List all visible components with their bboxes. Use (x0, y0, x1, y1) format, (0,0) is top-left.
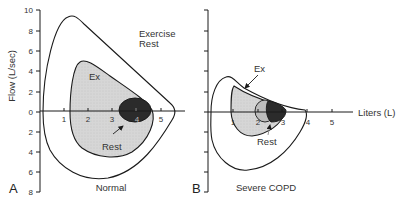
y-tick-label: 4 (29, 67, 34, 76)
x-tick-label: 4 (135, 115, 140, 124)
y-tick-label: 8 (29, 188, 34, 197)
x-axis-label: Liters (L) (358, 107, 395, 118)
y-tick-label: 10 (24, 6, 33, 15)
x-tick-label: 1 (62, 115, 67, 124)
rest-label-b: Rest (257, 136, 277, 147)
y-tick-label: 8 (29, 27, 34, 36)
x-tick-label: 4 (306, 118, 311, 127)
y-tick-label: 4 (29, 148, 34, 157)
y-axis-label: Flow (L/sec) (6, 50, 17, 102)
y-ticks-a (36, 10, 40, 192)
ex-label-a: Ex (89, 71, 100, 82)
panel-letter-a: A (9, 181, 18, 196)
y-ticks-b (204, 10, 208, 192)
caption-b: Severe COPD (236, 182, 296, 193)
flow-volume-figure: Flow (L/sec) 10 8 6 4 2 0 2 4 6 8 (0, 0, 402, 202)
panel-b: 1 2 3 4 5 Liters (L) Ex Rest B Severe CO… (192, 10, 395, 196)
x-tick-label: 5 (330, 118, 335, 127)
legend-rest: Rest (139, 38, 159, 49)
x-tick-label: 2 (86, 115, 91, 124)
y-tick-label: 6 (29, 168, 34, 177)
panel-a: Flow (L/sec) 10 8 6 4 2 0 2 4 6 8 (6, 6, 185, 197)
y-tick-label: 6 (29, 47, 34, 56)
y-tick-labels-a: 10 8 6 4 2 0 2 4 6 8 (24, 6, 33, 197)
y-tick-label: 2 (29, 128, 34, 137)
y-tick-label: 2 (29, 88, 34, 97)
rest-label-a: Rest (102, 141, 122, 152)
x-tick-label: 2 (256, 118, 261, 127)
ex-arrow-b (245, 75, 258, 88)
y-tick-label: 0 (29, 108, 34, 117)
caption-a: Normal (96, 182, 127, 193)
x-tick-label: 3 (110, 115, 115, 124)
x-tick-label: 5 (159, 115, 164, 124)
x-tick-label: 3 (281, 118, 286, 127)
x-tick-label: 1 (231, 118, 236, 127)
ex-label-b: Ex (254, 63, 265, 74)
panel-letter-b: B (192, 181, 201, 196)
